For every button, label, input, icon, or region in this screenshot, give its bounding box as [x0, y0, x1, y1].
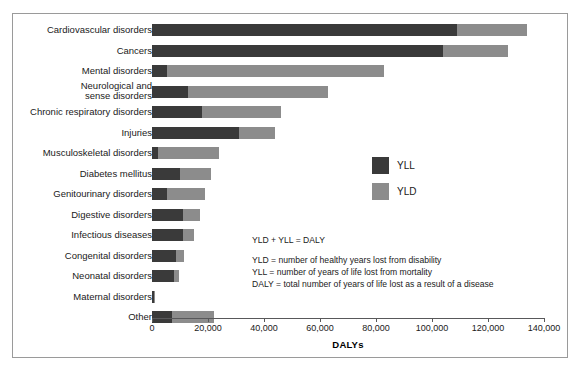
category-label: Chronic respiratory disorders: [0, 107, 152, 118]
stacked-bar: [152, 24, 527, 36]
x-axis-line: [152, 318, 544, 319]
bar-segment-yll: [152, 168, 180, 180]
axis-tick: [432, 318, 433, 322]
bar-segment-yll: [152, 250, 176, 262]
bar-segment-yld: [457, 24, 527, 36]
bar-row: Musculoskeletal disorders: [0, 147, 580, 159]
bar-segment-yld: [154, 291, 155, 303]
stacked-bar: [152, 86, 328, 98]
bar-segment-yld: [167, 188, 205, 200]
stacked-bar: [152, 209, 200, 221]
category-label: Digestive disorders: [0, 210, 152, 221]
definitions-note: YLD + YLL = DALY YLD = number of healthy…: [252, 235, 494, 290]
bar-row: Cardiovascular disorders: [0, 24, 580, 36]
legend-label-yld: YLD: [397, 186, 416, 197]
stacked-bar: [152, 291, 155, 303]
bar-row: Mental disorders: [0, 65, 580, 77]
bar-row: Chronic respiratory disorders: [0, 106, 580, 118]
legend-label-yll: YLL: [397, 160, 415, 171]
bar-segment-yld: [167, 65, 384, 77]
bar-segment-yld: [176, 250, 184, 262]
category-label: Genitourinary disorders: [0, 189, 152, 200]
bar-segment-yll: [152, 209, 183, 221]
bar-segment-yld: [158, 147, 220, 159]
axis-tick: [544, 318, 545, 322]
bar-segment-yll: [152, 127, 239, 139]
bar-segment-yld: [183, 209, 200, 221]
stacked-bar: [152, 229, 194, 241]
bar-segment-yld: [183, 229, 194, 241]
stacked-bar: [152, 250, 184, 262]
stacked-bar: [152, 188, 205, 200]
note-yll-definition: YLL = number of years of life lost from …: [252, 266, 494, 278]
stacked-bar: [152, 168, 211, 180]
legend-swatch-yll: [372, 157, 389, 174]
bar-row: Maternal disorders: [0, 291, 580, 303]
bar-segment-yld: [180, 168, 211, 180]
category-label: Other: [0, 312, 152, 323]
category-label: Congenital disorders: [0, 251, 152, 262]
x-axis-title: DALYs: [152, 339, 544, 350]
stacked-bar: [152, 45, 508, 57]
axis-tick-label: 140,000: [509, 323, 579, 333]
category-label: Musculoskeletal disorders: [0, 148, 152, 159]
stacked-bar: [152, 106, 281, 118]
bar-row: Cancers: [0, 45, 580, 57]
bar-segment-yld: [202, 106, 280, 118]
category-label: Cancers: [0, 46, 152, 57]
category-label: Injuries: [0, 128, 152, 139]
bar-segment-yll: [152, 229, 183, 241]
category-label: Infectious diseases: [0, 230, 152, 241]
bar-segment-yld: [188, 86, 328, 98]
bar-row: Injuries: [0, 127, 580, 139]
bar-row: Digestive disorders: [0, 209, 580, 221]
stacked-bar: [152, 270, 179, 282]
stacked-bar: [152, 147, 219, 159]
axis-tick: [488, 318, 489, 322]
note-equation: YLD + YLL = DALY: [252, 235, 494, 245]
bar-segment-yll: [152, 45, 443, 57]
note-yld-definition: YLD = number of healthy years lost from …: [252, 254, 494, 266]
axis-tick: [376, 318, 377, 322]
stacked-bar: [152, 311, 214, 323]
category-label: Mental disorders: [0, 66, 152, 77]
plot-area: Cardiovascular disordersCancersMental di…: [0, 0, 580, 372]
bar-row: Diabetes mellitus: [0, 168, 580, 180]
bar-segment-yll: [152, 65, 167, 77]
category-label: Maternal disorders: [0, 292, 152, 303]
bar-row: Neurological and sense disorders: [0, 86, 580, 98]
axis-tick: [208, 318, 209, 322]
note-daly-definition: DALY = total number of years of life los…: [252, 278, 494, 290]
bar-segment-yll: [152, 106, 202, 118]
bar-segment-yll: [152, 311, 172, 323]
category-label: Neonatal disorders: [0, 271, 152, 282]
bar-segment-yld: [239, 127, 275, 139]
bar-segment-yll: [152, 24, 457, 36]
bar-segment-yll: [152, 270, 174, 282]
category-label: Cardiovascular disorders: [0, 25, 152, 36]
bar-segment-yll: [152, 188, 167, 200]
category-label: Diabetes mellitus: [0, 169, 152, 180]
bar-segment-yll: [152, 86, 188, 98]
stacked-bar: [152, 127, 275, 139]
bar-row: Other: [0, 311, 580, 323]
stacked-bar: [152, 65, 384, 77]
chart-figure: Cardiovascular disordersCancersMental di…: [0, 0, 580, 372]
legend-swatch-yld: [372, 183, 389, 200]
axis-tick: [264, 318, 265, 322]
bar-segment-yld: [174, 270, 178, 282]
bar-segment-yld: [443, 45, 507, 57]
axis-tick: [152, 318, 153, 322]
bar-row: Genitourinary disorders: [0, 188, 580, 200]
category-label: Neurological and sense disorders: [0, 81, 152, 102]
axis-tick: [320, 318, 321, 322]
